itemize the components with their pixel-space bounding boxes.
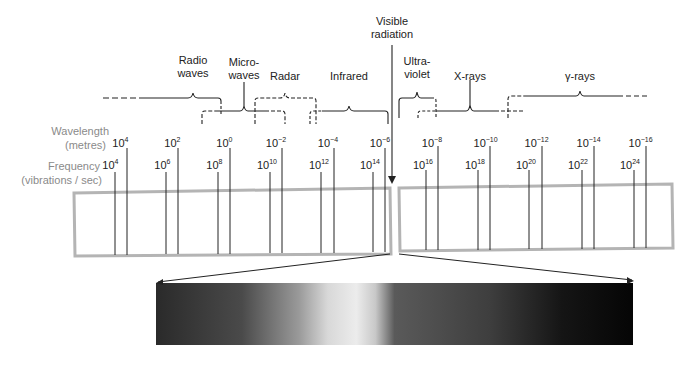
expand-line-right <box>399 254 632 280</box>
right-spectrum-box <box>399 184 673 251</box>
expand-line-left <box>158 254 390 282</box>
spectrum-line-art <box>0 0 695 368</box>
arrow-right-icon <box>627 277 634 284</box>
xrays-bracket <box>436 105 495 111</box>
arrow-down-icon <box>388 176 396 184</box>
gammarays-bracket <box>525 91 618 96</box>
left-spectrum-box <box>74 188 391 256</box>
radio-bracket <box>140 93 221 101</box>
infrared-bracket <box>322 106 388 124</box>
arrow-left-icon <box>156 279 163 285</box>
